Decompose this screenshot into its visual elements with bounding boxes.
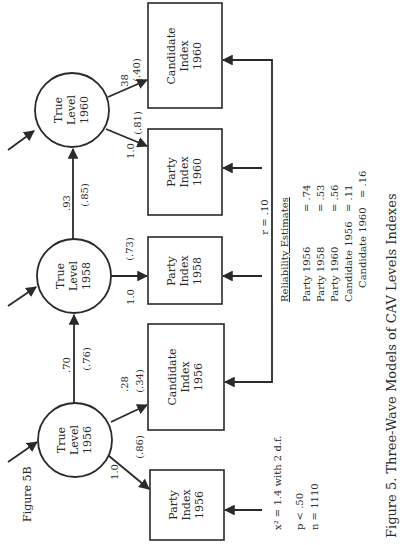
reliability-label: Party 1956 <box>301 247 312 302</box>
svg-text:Party: Party <box>165 256 178 286</box>
reliability-table: Party 1956 = .74 Party 1958 = .53 Party … <box>301 171 368 302</box>
coef-t56-p56: 1.0 <box>109 464 120 480</box>
reliability-title: Reliability Estimates <box>279 197 290 302</box>
party-index-1956-label: Party Index 1956 <box>167 489 206 521</box>
disturbance-arrow-1958 <box>8 287 36 306</box>
svg-text:Party: Party <box>167 490 180 520</box>
figure-caption: Figure 5. Three-Wave Models of CAV Level… <box>384 193 399 538</box>
reliability-value: = .11 <box>343 185 354 212</box>
party-index-1960-label: Party Index 1960 <box>165 156 204 188</box>
std-t56-p56: (.86) <box>134 435 145 459</box>
svg-text:Candidate: Candidate <box>165 27 178 84</box>
coef-t58-p58: 1.0 <box>125 289 136 305</box>
svg-text:Candidate: Candidate <box>166 348 179 405</box>
svg-text:Level: Level <box>65 94 78 125</box>
coef-t60-c60: .38 <box>119 74 130 90</box>
reliability-value: = .74 <box>301 185 312 212</box>
svg-text:Index: Index <box>178 40 191 72</box>
correlation-label: r = .10 <box>259 199 270 234</box>
coef-t56-c56: .28 <box>119 376 130 392</box>
svg-text:Party: Party <box>165 157 178 187</box>
svg-text:True: True <box>54 263 67 289</box>
svg-text:Level: Level <box>67 260 80 291</box>
coef-t58-t60: .93 <box>61 195 72 211</box>
svg-text:Index: Index <box>178 156 191 188</box>
disturbance-arrow-1960 <box>8 131 34 150</box>
svg-text:1960: 1960 <box>191 42 204 70</box>
std-t60-p60: (.81) <box>132 111 143 135</box>
std-t56-c56: (.34) <box>134 369 145 393</box>
svg-text:1956: 1956 <box>192 363 205 391</box>
reliability-value: = .16 <box>357 171 368 198</box>
coef-t56-t58: .70 <box>61 357 72 373</box>
svg-text:Index: Index <box>178 255 191 287</box>
svg-text:1960: 1960 <box>78 96 91 124</box>
party-index-1958-label: Party Index 1958 <box>165 255 204 287</box>
reliability-label: Party 1960 <box>329 247 340 302</box>
reliability-value: = .53 <box>315 185 326 212</box>
std-t60-c60: (.40) <box>131 58 142 82</box>
reliability-label: Party 1958 <box>315 247 326 302</box>
reliability-value: = .56 <box>329 185 340 212</box>
reliability-label: Candidate 1956 <box>343 221 354 302</box>
coef-t60-p60: 1.0 <box>125 143 136 159</box>
svg-text:Index: Index <box>179 361 192 393</box>
true-level-1960-label: True Level 1960 <box>52 94 91 125</box>
true-level-1956-label: True Level 1956 <box>55 424 94 455</box>
svg-text:True: True <box>52 97 65 123</box>
svg-text:Level: Level <box>68 424 81 455</box>
svg-text:1958: 1958 <box>80 262 93 290</box>
svg-text:1958: 1958 <box>191 257 204 285</box>
true-level-1958-label: True Level 1958 <box>54 260 93 291</box>
fit-n: n = 1110 <box>309 483 320 530</box>
figure-label: Figure 5B <box>21 466 34 522</box>
disturbance-arrow-1956 <box>8 442 37 462</box>
svg-text:1956: 1956 <box>193 491 206 519</box>
svg-text:1956: 1956 <box>81 426 94 454</box>
path-diagram: True Level 1960 True Level 1958 True Lev… <box>0 0 402 545</box>
reliability-label: Candidate 1960 <box>357 207 368 288</box>
fit-p-value: p < .50 <box>294 493 305 530</box>
svg-text:Index: Index <box>180 489 193 521</box>
svg-text:1960: 1960 <box>191 158 204 186</box>
std-t58-p58: (.73) <box>124 237 135 261</box>
std-t56-t58: (.76) <box>81 347 92 371</box>
arrow-true1956-to-candidate1956 <box>111 405 147 422</box>
svg-text:True: True <box>55 427 68 453</box>
std-t58-t60: (.85) <box>79 183 90 207</box>
fit-chi-square: x² = 1.4 with 2 d.f. <box>272 435 283 530</box>
